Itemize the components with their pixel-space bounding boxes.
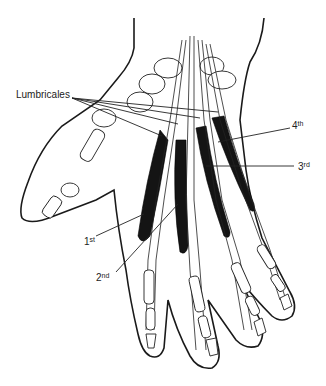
label-first-lumbrical: 1st <box>84 236 95 247</box>
label-third-lumbrical: 3rd <box>298 161 310 172</box>
label-third-suffix: rd <box>304 161 310 168</box>
hand-anatomy-diagram: Lumbricales 1st 2nd 3rd 4th <box>0 0 326 386</box>
label-fourth-suffix: th <box>298 120 304 127</box>
label-lumbricales: Lumbricales <box>16 90 70 100</box>
label-second-lumbrical: 2nd <box>96 272 109 283</box>
label-second-suffix: nd <box>102 272 110 279</box>
hand-illustration <box>0 0 326 386</box>
label-fourth-lumbrical: 4th <box>292 120 303 131</box>
label-first-suffix: st <box>90 236 95 243</box>
